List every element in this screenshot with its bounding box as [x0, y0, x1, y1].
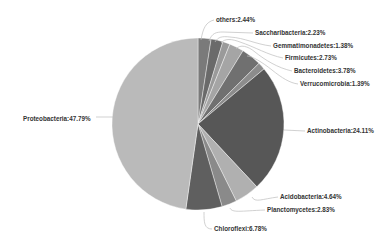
- leader-actinobacteria: [284, 130, 305, 131]
- slice-label: Verrucomicrobia:1.39%: [300, 81, 370, 87]
- slice-label: Saccharibacteria:2.23%: [255, 30, 325, 36]
- slice-label: Firmicutes:2.73%: [285, 55, 337, 61]
- leader-planctomycetes: [230, 208, 265, 211]
- slice-label: Proteobacteria:47.79%: [23, 116, 91, 122]
- slice-label: Actinobacteria:24.11%: [307, 128, 374, 134]
- leader-chloroflexi: [204, 212, 212, 229]
- slice-label: Chloroflexi:6.78%: [214, 226, 267, 232]
- pie-slice-proteobacteria: [112, 38, 198, 209]
- slice-label: Gemmatimonadetes:1.38%: [273, 43, 353, 49]
- leader-others: [201, 20, 214, 40]
- pie-slices: [112, 38, 284, 210]
- slice-label: others:2.44%: [216, 17, 255, 23]
- slice-label: Planctomycetes:2.83%: [267, 207, 335, 213]
- slice-label: Acidobacteria:4.64%: [280, 194, 342, 200]
- leader-acidobacteria: [252, 197, 278, 200]
- slice-label: Bacteroidetes:3.78%: [294, 68, 356, 74]
